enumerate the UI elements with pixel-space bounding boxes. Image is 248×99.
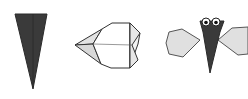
left-wing xyxy=(166,29,200,57)
bug-figure xyxy=(160,0,248,99)
step-2-folded-base xyxy=(70,0,160,99)
folded-base-figure xyxy=(70,0,160,99)
step-1-dark-cone xyxy=(0,0,70,99)
bug-body xyxy=(200,21,224,73)
dark-cone-figure xyxy=(0,0,70,99)
right-wing xyxy=(218,27,248,55)
step-3-finished-bug xyxy=(160,0,248,99)
